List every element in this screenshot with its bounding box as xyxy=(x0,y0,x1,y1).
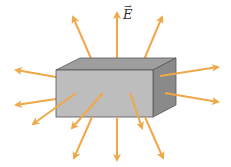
field-arrow xyxy=(145,117,163,158)
vector-arrow-icon: → xyxy=(124,1,132,11)
box-front-face xyxy=(56,70,153,117)
field-label: → E xyxy=(123,7,133,22)
field-diagram xyxy=(0,0,231,167)
field-arrow xyxy=(16,70,56,77)
field-arrow xyxy=(16,99,56,105)
field-arrow xyxy=(73,17,93,63)
box xyxy=(56,58,176,117)
field-arrow xyxy=(143,17,162,62)
